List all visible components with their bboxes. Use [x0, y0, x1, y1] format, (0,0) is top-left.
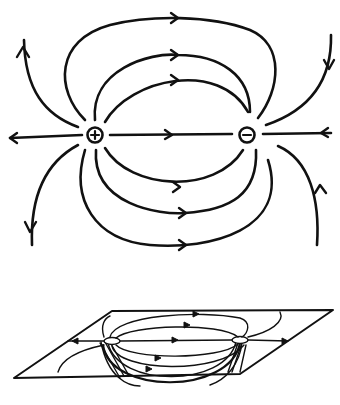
arrow-icon [193, 311, 199, 317]
arrow-icon [315, 185, 326, 193]
field-line-lower-inner [105, 148, 243, 182]
field-line-plane-outer [110, 314, 248, 337]
field-line-axis-left [10, 135, 82, 138]
field-line-plane-upper-right [248, 312, 281, 337]
field-line-plane-lower-left [58, 345, 104, 372]
positive-charge-disc-icon [104, 338, 120, 345]
dipole-field-top-view [10, 13, 334, 250]
field-line-plane-upper-left [103, 316, 110, 337]
field-line-lower-outer [81, 150, 272, 246]
dipole-diagram [0, 0, 340, 405]
field-line-plane-lower-inner [116, 344, 238, 356]
arrow-icon [146, 366, 152, 372]
dipole-field-perspective-view [14, 310, 333, 386]
field-line-plane-inner [116, 327, 238, 338]
field-line-below-plane [210, 342, 242, 385]
arrow-icon [17, 47, 29, 57]
negative-charge-icon [240, 128, 255, 143]
negative-charge-disc-icon [232, 337, 248, 344]
field-line-upper-middle [95, 55, 250, 120]
shading-right [228, 343, 246, 372]
positive-charge-icon [88, 128, 103, 143]
field-line-upper-inner [105, 80, 248, 122]
plane-outline [14, 310, 333, 378]
field-line-lower-left [32, 145, 78, 245]
arrow-icon [25, 222, 36, 232]
arrow-icon [173, 182, 180, 192]
field-line-lower-right [278, 146, 318, 245]
arrow-icon [172, 337, 178, 343]
